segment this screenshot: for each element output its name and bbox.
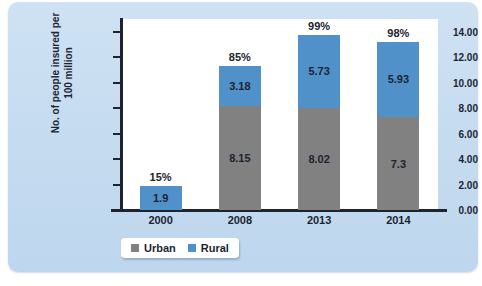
bar-segment-urban[interactable]: 8.15	[219, 106, 261, 210]
bar-stack[interactable]: 15%1.9	[140, 186, 182, 210]
chart-panel: No. of people insured per 100 million 0.…	[8, 2, 478, 272]
x-tick-label: 2008	[205, 214, 275, 226]
legend-item[interactable]: Rural	[188, 242, 229, 254]
bar-segment-urban[interactable]: 7.3	[377, 117, 419, 210]
legend-label: Urban	[144, 242, 176, 254]
chart-legend: UrbanRural	[121, 238, 239, 258]
y-tick-mark	[113, 31, 121, 33]
bar-value-label: 1.9	[153, 192, 168, 204]
legend-swatch-icon	[131, 244, 139, 252]
bar-percent-label: 15%	[131, 171, 191, 183]
bar-value-label: 3.18	[229, 80, 250, 92]
bar-percent-label: 85%	[210, 51, 270, 63]
x-tick-label: 2000	[126, 214, 196, 226]
y-axis-title-line-2: 100 million	[62, 0, 75, 163]
y-tick-mark	[113, 133, 121, 135]
x-tick-label: 2014	[363, 214, 433, 226]
bar-value-label: 7.3	[391, 158, 406, 170]
y-tick-mark	[113, 107, 121, 109]
x-tick-label: 2013	[284, 214, 354, 226]
bar-segment-rural[interactable]: 5.93	[377, 42, 419, 118]
bar-segment-rural[interactable]: 3.18	[219, 66, 261, 106]
bar-segment-rural[interactable]: 5.73	[298, 35, 340, 108]
bar-value-label: 5.73	[308, 65, 329, 77]
bar-percent-label: 98%	[368, 27, 428, 39]
y-tick-mark	[113, 56, 121, 58]
chart-figure: No. of people insured per 100 million 0.…	[0, 0, 482, 286]
bar-percent-label: 99%	[289, 20, 349, 32]
bar-segment-rural[interactable]: 1.9	[140, 186, 182, 210]
y-tick-mark	[113, 158, 121, 160]
bar-value-label: 8.15	[229, 152, 250, 164]
bar-stack[interactable]: 85%3.188.15	[219, 66, 261, 210]
y-tick-mark	[113, 209, 121, 211]
y-axis-title: No. of people insured per 100 million	[49, 0, 75, 163]
legend-label: Rural	[201, 242, 229, 254]
legend-swatch-icon	[188, 244, 196, 252]
y-axis-title-line-1: No. of people insured per	[49, 0, 62, 163]
y-tick-mark	[113, 82, 121, 84]
legend-item[interactable]: Urban	[131, 242, 176, 254]
bar-value-label: 5.93	[388, 73, 409, 85]
y-tick-mark	[113, 184, 121, 186]
bar-segment-urban[interactable]: 8.02	[298, 108, 340, 210]
bar-stack[interactable]: 99%5.738.02	[298, 35, 340, 210]
bar-stack[interactable]: 98%5.937.3	[377, 42, 419, 210]
bar-value-label: 8.02	[308, 153, 329, 165]
